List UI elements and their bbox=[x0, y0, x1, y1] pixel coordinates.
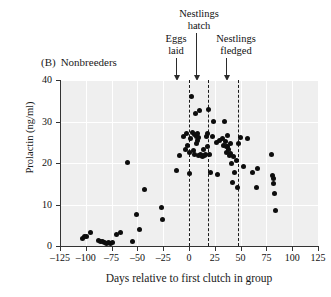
data-point bbox=[210, 134, 215, 139]
data-point bbox=[125, 160, 130, 165]
data-point bbox=[255, 166, 260, 171]
data-point bbox=[241, 164, 246, 169]
event-line-eggs-laid bbox=[189, 80, 190, 246]
data-point bbox=[272, 191, 277, 196]
event-line-nestlings-hatch bbox=[208, 80, 209, 246]
y-tick-label: 20 bbox=[26, 157, 52, 168]
data-point bbox=[196, 135, 201, 140]
y-axis-spine bbox=[60, 80, 61, 247]
annotation-nestlings-fledged: Nestlings fledged bbox=[201, 33, 271, 56]
panel-id: (B) bbox=[41, 56, 56, 68]
arrow-down-icon-nestlings-hatch bbox=[196, 33, 197, 76]
data-point bbox=[110, 240, 115, 245]
data-point bbox=[174, 168, 179, 173]
y-tick bbox=[56, 122, 60, 123]
data-point bbox=[188, 136, 193, 141]
data-point bbox=[208, 170, 213, 175]
data-point bbox=[160, 217, 165, 222]
x-tick bbox=[241, 247, 242, 251]
annotation-nestlings-hatch: Nestlings hatch bbox=[166, 8, 232, 31]
x-axis-label: Days relative to first clutch in group bbox=[44, 272, 331, 284]
event-line-nestlings-fledged bbox=[238, 80, 239, 246]
y-tick-label: 10 bbox=[26, 199, 52, 210]
y-axis-label: Prolactin (ng/ml) bbox=[24, 63, 35, 213]
annotation-nestlings-hatch-line1: Nestlings bbox=[166, 8, 232, 20]
x-tick bbox=[137, 247, 138, 251]
annotation-nestlings-hatch-line2: hatch bbox=[166, 20, 232, 32]
data-point bbox=[130, 239, 135, 244]
y-tick-label: 30 bbox=[26, 116, 52, 127]
x-tick bbox=[292, 247, 293, 251]
data-point bbox=[238, 135, 243, 140]
arrow-down-icon-eggs-laid bbox=[176, 58, 177, 76]
annotation-eggs-laid-line2: laid bbox=[150, 45, 202, 57]
data-point bbox=[205, 144, 210, 149]
data-point bbox=[273, 208, 278, 213]
x-tick bbox=[163, 247, 164, 251]
x-tick bbox=[86, 247, 87, 251]
x-tick bbox=[266, 247, 267, 251]
data-point bbox=[228, 141, 233, 146]
x-tick bbox=[189, 247, 190, 251]
y-tick-label: 0 bbox=[26, 240, 52, 251]
annotation-eggs-laid-line1: Eggs bbox=[150, 33, 202, 45]
data-point bbox=[222, 119, 227, 124]
y-tick bbox=[56, 163, 60, 164]
data-point bbox=[225, 133, 230, 138]
data-point bbox=[159, 205, 164, 210]
panel-title: Nonbreeders bbox=[61, 56, 117, 68]
data-point bbox=[232, 170, 237, 175]
annotation-nestlings-fledged-line2: fledged bbox=[201, 45, 271, 57]
x-tick bbox=[112, 247, 113, 251]
x-tick bbox=[318, 247, 319, 251]
arrow-down-icon-nestlings-fledged bbox=[226, 58, 227, 76]
y-tick bbox=[56, 205, 60, 206]
annotation-eggs-laid: Eggs laid bbox=[150, 33, 202, 56]
annotation-nestlings-fledged-line1: Nestlings bbox=[201, 33, 271, 45]
y-tick-label: 40 bbox=[26, 74, 52, 85]
x-tick bbox=[60, 247, 61, 251]
x-tick bbox=[215, 247, 216, 251]
x-tick-label: 125 bbox=[298, 252, 331, 263]
y-tick bbox=[56, 80, 60, 81]
figure-panel-b: Eggs laid Nestlings hatch Nestlings fled… bbox=[0, 0, 331, 297]
gridline-vertical bbox=[318, 80, 319, 246]
data-point bbox=[187, 171, 192, 176]
panel-label: (B)Nonbreeders bbox=[41, 56, 117, 68]
data-point bbox=[189, 94, 194, 99]
